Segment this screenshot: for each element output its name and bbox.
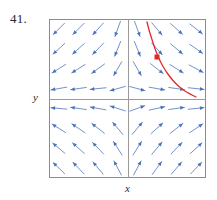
problem-number: 41. [10,11,27,27]
initial-condition-point-marker [155,55,160,60]
direction-field-figure: 41. y x [0,0,217,200]
x-axis-label: x [125,182,130,194]
point-marker-group [155,55,160,60]
plot-frame-rect [50,20,206,178]
plot-frame [50,20,206,178]
y-axis-label: y [33,91,38,103]
